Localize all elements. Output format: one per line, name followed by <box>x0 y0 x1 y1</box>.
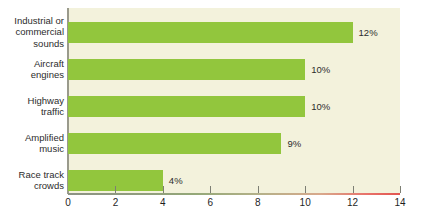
axis-tick <box>163 186 164 193</box>
category-label: Amplifiedmusic <box>0 132 64 154</box>
bar <box>68 59 305 80</box>
bar-row: 9% <box>68 133 400 154</box>
bar-value-label: 9% <box>287 138 301 149</box>
category-label-line: Amplified <box>0 132 64 143</box>
bar-row: 12% <box>68 22 400 43</box>
category-label: Race trackcrowds <box>0 169 64 191</box>
category-label-line: commercial <box>0 26 64 37</box>
bar <box>68 133 281 154</box>
axis-tick <box>115 186 116 193</box>
axis-tick-label: 2 <box>113 197 119 208</box>
bar <box>68 22 353 43</box>
axis-tick <box>305 186 306 193</box>
bar-row: 4% <box>68 170 400 191</box>
category-label-line: Aircraft <box>0 58 64 69</box>
bar-value-label: 10% <box>311 64 330 75</box>
category-label-line: engines <box>0 69 64 80</box>
category-label-gutter: Industrial orcommercialsoundsAircrafteng… <box>0 8 64 193</box>
category-label-line: Industrial or <box>0 15 64 26</box>
axis-tick <box>400 186 401 193</box>
axis-tick-label: 14 <box>394 197 405 208</box>
bar-value-label: 10% <box>311 101 330 112</box>
axis-tick <box>353 186 354 193</box>
category-label: Aircraftengines <box>0 58 64 80</box>
axis-tick-label: 10 <box>300 197 311 208</box>
bar-chart: Industrial orcommercialsoundsAircrafteng… <box>0 0 422 224</box>
value-axis-line <box>68 193 400 195</box>
category-label: Highwaytraffic <box>0 95 64 117</box>
category-label-line: traffic <box>0 106 64 117</box>
axis-tick-label: 8 <box>255 197 261 208</box>
axis-tick-label: 12 <box>347 197 358 208</box>
axis-tick <box>210 186 211 193</box>
category-label-line: music <box>0 143 64 154</box>
bar-value-label: 4% <box>169 175 183 186</box>
category-label-line: Highway <box>0 95 64 106</box>
bar <box>68 96 305 117</box>
category-label-line: crowds <box>0 180 64 191</box>
axis-tick <box>258 186 259 193</box>
category-label-line: sounds <box>0 38 64 49</box>
category-label-line: Race track <box>0 169 64 180</box>
axis-tick-label: 0 <box>65 197 71 208</box>
bar-row: 10% <box>68 96 400 117</box>
bar-value-label: 12% <box>359 27 378 38</box>
bar-row: 10% <box>68 59 400 80</box>
category-label: Industrial orcommercialsounds <box>0 15 64 49</box>
axis-tick-label: 6 <box>208 197 214 208</box>
axis-tick-label: 4 <box>160 197 166 208</box>
